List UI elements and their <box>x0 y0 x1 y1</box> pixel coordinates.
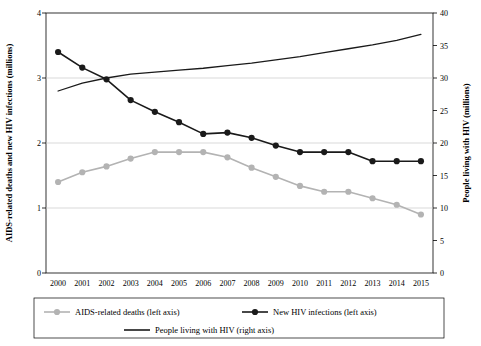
series-point <box>394 202 400 208</box>
series-point <box>152 149 158 155</box>
right-axis-tick-label: 5 <box>440 237 444 246</box>
x-axis-tick-label: 2002 <box>98 279 114 288</box>
series-point <box>128 97 134 103</box>
series-point <box>200 149 206 155</box>
series-point <box>369 158 375 164</box>
series-point <box>79 65 85 71</box>
series-point <box>55 49 61 55</box>
legend-marker-swatch <box>54 309 60 315</box>
right-axis-tick-label: 0 <box>440 269 444 278</box>
hiv-statistics-chart: 0123405101520253035402000200120022003200… <box>0 0 481 346</box>
series-point <box>79 169 85 175</box>
x-axis-tick-label: 2003 <box>123 279 139 288</box>
right-axis-tick-label: 40 <box>440 9 448 18</box>
series-point <box>224 130 230 136</box>
x-axis-tick-label: 2013 <box>365 279 381 288</box>
series-point <box>297 149 303 155</box>
series-point <box>273 174 279 180</box>
x-axis-tick-label: 2011 <box>316 279 332 288</box>
left-axis-tick-label: 0 <box>37 269 41 278</box>
series-point <box>273 143 279 149</box>
left-axis-title: AIDS-related deaths and new HIV infectio… <box>4 44 14 243</box>
series-point <box>321 149 327 155</box>
x-axis-tick-label: 2000 <box>50 279 66 288</box>
plot-area: 0123405101520253035402000200120022003200… <box>4 9 471 338</box>
x-axis-tick-label: 2007 <box>219 279 235 288</box>
legend-label: People living with HIV (right axis) <box>155 325 274 335</box>
series-point <box>224 154 230 160</box>
series-point <box>176 119 182 125</box>
legend-label: New HIV infections (left axis) <box>273 307 377 317</box>
series-point <box>418 211 424 217</box>
x-axis-tick-label: 2001 <box>74 279 90 288</box>
x-axis-tick-label: 2005 <box>171 279 187 288</box>
series-point <box>345 189 351 195</box>
x-axis-tick-label: 2006 <box>195 279 211 288</box>
x-axis-tick-label: 2015 <box>413 279 429 288</box>
series-point <box>176 149 182 155</box>
right-axis-tick-label: 15 <box>440 172 448 181</box>
series-point <box>200 131 206 137</box>
series-point <box>103 163 109 169</box>
left-axis-tick-label: 2 <box>37 139 41 148</box>
x-axis-tick-label: 2008 <box>244 279 260 288</box>
left-axis-tick-label: 1 <box>37 204 41 213</box>
left-axis-tick-label: 4 <box>37 9 41 18</box>
right-axis-title: People living with HIV (millions) <box>461 83 471 202</box>
series-point <box>345 149 351 155</box>
series-point <box>321 189 327 195</box>
x-axis-tick-label: 2004 <box>147 279 163 288</box>
x-axis-tick-label: 2009 <box>268 279 284 288</box>
series-point <box>297 183 303 189</box>
right-axis-tick-label: 35 <box>440 42 448 51</box>
series-point <box>248 135 254 141</box>
chart-canvas: 0123405101520253035402000200120022003200… <box>0 0 481 346</box>
legend-label: AIDS-related deaths (left axis) <box>75 307 180 317</box>
series-point <box>152 109 158 115</box>
series-point <box>55 179 61 185</box>
x-axis-tick-label: 2010 <box>292 279 308 288</box>
series-point <box>248 165 254 171</box>
right-axis-tick-label: 25 <box>440 107 448 116</box>
legend-marker-swatch <box>252 309 258 315</box>
x-axis-tick-label: 2012 <box>340 279 356 288</box>
right-axis-tick-label: 30 <box>440 74 448 83</box>
x-axis-tick-label: 2014 <box>389 279 405 288</box>
series-point <box>418 158 424 164</box>
left-axis-tick-label: 3 <box>37 74 41 83</box>
right-axis-tick-label: 10 <box>440 204 448 213</box>
series-point <box>394 158 400 164</box>
series-point <box>128 156 134 162</box>
series-point <box>369 195 375 201</box>
right-axis-tick-label: 20 <box>440 139 448 148</box>
